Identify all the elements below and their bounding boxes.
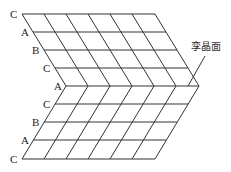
twin-layer-label: A [54,80,62,92]
layer-label: C [43,98,50,110]
layer-label: A [21,26,29,38]
layer-lines [22,14,199,159]
layer-label: C [10,8,17,20]
twin-plane-annotation: 孪晶面 [191,40,221,52]
layer-label: B [32,116,39,128]
twin-boundary-diagram: C A B C A C B A C 孪晶面 [0,0,231,172]
layer-label: A [21,134,29,146]
layer-label: C [10,153,17,165]
layer-label: C [43,62,50,74]
layer-label: B [32,44,39,56]
